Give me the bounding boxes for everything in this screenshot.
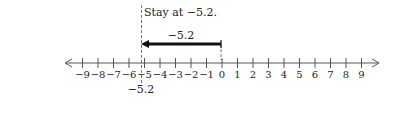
tick-label: −8	[91, 69, 106, 80]
tick-label: 7	[327, 69, 333, 80]
tick-label: −5	[137, 69, 152, 80]
tick-label: −4	[153, 69, 168, 80]
tick-label: 6	[312, 69, 318, 80]
movement-arrowhead-icon	[141, 40, 149, 48]
caption-text: Stay at −5.2.	[144, 6, 217, 19]
tick-label: −3	[168, 69, 183, 80]
tick-label: 3	[265, 69, 271, 80]
ticks: −9−8−7−6−5−4−3−2−10123456789	[75, 58, 365, 80]
tick-label: −2	[184, 69, 199, 80]
number-line-diagram: Stay at −5.2. −5.2 −9−8−7−6−5−4−3−2−1012…	[0, 0, 398, 113]
tick-label: 1	[234, 69, 240, 80]
marker-label: −5.2	[128, 83, 155, 96]
tick-label: 8	[343, 69, 349, 80]
tick-label: −1	[199, 69, 214, 80]
tick-label: 2	[250, 69, 256, 80]
tick-label: 9	[358, 69, 364, 80]
tick-label: 0	[219, 69, 225, 80]
tick-label: −7	[106, 69, 121, 80]
tick-label: 4	[281, 69, 287, 80]
tick-label: 5	[296, 69, 302, 80]
tick-label: −9	[75, 69, 90, 80]
movement-label: −5.2	[168, 29, 195, 42]
tick-label: −6	[122, 69, 137, 80]
